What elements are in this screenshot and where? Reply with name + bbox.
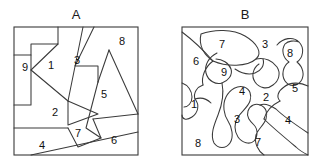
partition-figure: A 9 1 3 8 5 2 7 4 6 [0, 0, 321, 168]
region-label: 5 [101, 88, 107, 100]
region-label: 6 [193, 55, 199, 67]
panel-b: B 7 3 8 6 9 5 4 2 [182, 7, 308, 155]
region-label: 3 [262, 38, 268, 50]
region-label: 8 [195, 137, 201, 149]
region-label: 2 [52, 106, 58, 118]
region-label: 1 [191, 98, 197, 110]
region-label: 7 [75, 127, 81, 139]
region-label: 5 [292, 82, 298, 94]
panel-a: A 9 1 3 8 5 2 7 4 6 [14, 7, 138, 155]
region-label: 2 [263, 91, 269, 103]
region-label: 9 [221, 66, 227, 78]
region-label: 7 [255, 136, 261, 148]
region-label: 7 [219, 38, 225, 50]
region-label: 3 [234, 113, 240, 125]
panel-a-label: A [72, 7, 81, 22]
region-label: 6 [111, 134, 117, 146]
panel-b-label: B [241, 7, 250, 22]
region-label: 4 [239, 85, 245, 97]
region-label: 4 [39, 139, 45, 151]
region-label: 8 [287, 47, 293, 59]
region-label: 8 [119, 35, 125, 47]
region-label: 1 [48, 59, 54, 71]
region-label: 9 [22, 61, 28, 73]
region-label: 4 [285, 114, 291, 126]
region-label: 3 [74, 54, 80, 66]
